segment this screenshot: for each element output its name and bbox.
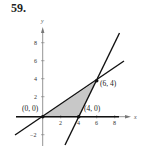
line-y-equals-2x-minus-8 (65, 33, 120, 145)
label-6-4: (6, 4) (100, 79, 117, 88)
label-0-0: (0, 0) (22, 104, 39, 113)
svg-text:2: 2 (34, 94, 37, 100)
x-axis-label: x (133, 114, 137, 120)
point-6-4 (95, 79, 99, 83)
point-4-0 (77, 115, 81, 119)
svg-text:6: 6 (34, 58, 37, 64)
y-axis-label: y (40, 18, 44, 24)
svg-text:8: 8 (113, 120, 116, 126)
svg-text:8: 8 (34, 40, 37, 46)
svg-text:2: 2 (59, 120, 62, 126)
label-4-0: (4, 0) (84, 104, 101, 113)
graph: y x 8 6 4 2 −2 2 4 6 8 (0, 0) (4, 0) (6,… (0, 0, 143, 148)
svg-text:4: 4 (34, 76, 37, 82)
svg-text:6: 6 (95, 120, 98, 126)
point-0-0 (41, 115, 45, 119)
y-axis-arrow-icon (41, 27, 44, 33)
x-axis-arrow-icon (125, 115, 131, 118)
line-y-equals-2x-over-3 (15, 61, 124, 135)
svg-text:−2: −2 (30, 132, 36, 138)
